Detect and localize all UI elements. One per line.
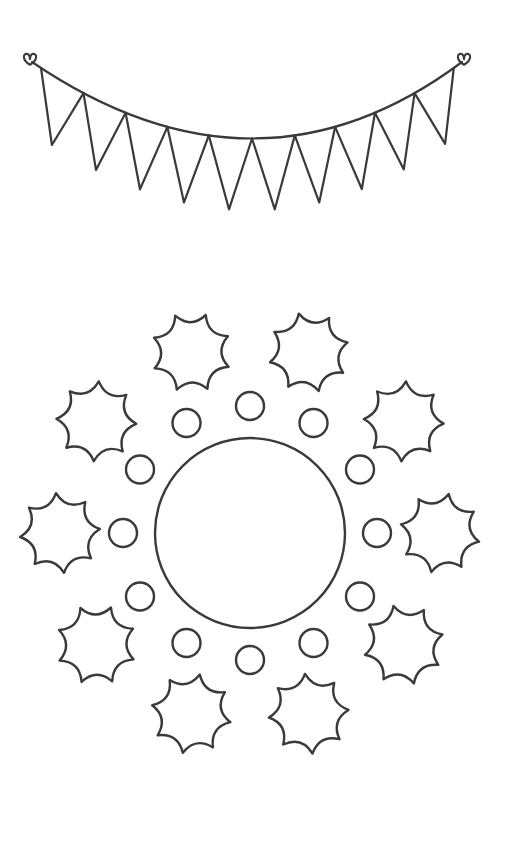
- coloring-page-canvas: [0, 0, 514, 856]
- artboard: [0, 0, 514, 856]
